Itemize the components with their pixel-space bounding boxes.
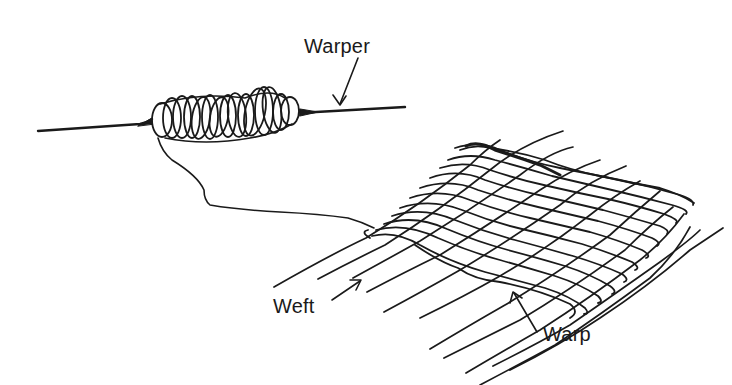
warper-label: Warper: [304, 36, 370, 56]
warper-arrow: [333, 58, 358, 105]
wound-yarn: [152, 86, 299, 142]
weft-thread: [158, 138, 374, 228]
weft-arrow: [332, 280, 361, 300]
weaving-diagram: [0, 0, 732, 385]
warp-label: Warp: [543, 324, 591, 344]
cloth-top-edge: [466, 144, 560, 175]
weft-label: Weft: [273, 296, 315, 316]
warp-threads: [274, 131, 723, 385]
